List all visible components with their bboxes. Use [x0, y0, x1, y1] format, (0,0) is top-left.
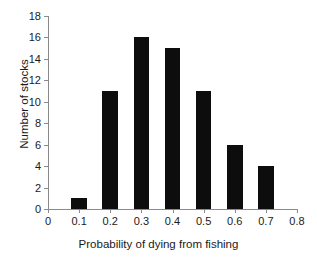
- y-tick-label-4: 4: [35, 161, 41, 172]
- y-tick-label-10: 10: [29, 96, 41, 107]
- x-tick-label-0.7: 0.7: [258, 216, 273, 227]
- y-tick-label-0: 0: [35, 204, 41, 215]
- x-tick-label-0.1: 0.1: [71, 216, 86, 227]
- bars-layer: [48, 16, 298, 209]
- x-tick-label-0.6: 0.6: [227, 216, 242, 227]
- y-tick-label-18: 18: [29, 11, 41, 22]
- x-tick-0.4: [173, 209, 174, 213]
- x-tick-label-0.8: 0.8: [289, 216, 304, 227]
- bar-0.6: [227, 145, 243, 209]
- plot-area: 024681012141618 00.10.20.30.40.50.60.70.…: [48, 16, 297, 209]
- x-tick-0.6: [235, 209, 236, 213]
- y-tick-label-2: 2: [35, 182, 41, 193]
- y-tick-label-6: 6: [35, 139, 41, 150]
- x-tick-0.5: [204, 209, 205, 213]
- x-tick-0.7: [266, 209, 267, 213]
- y-axis-title-wrap: Number of stocks: [12, 16, 28, 209]
- bar-0.7: [258, 166, 274, 209]
- x-tick-label-0.4: 0.4: [165, 216, 180, 227]
- bar-0.2: [102, 91, 118, 209]
- x-tick-0.1: [79, 209, 80, 213]
- y-tick-label-14: 14: [29, 53, 41, 64]
- y-axis-title: Number of stocks: [18, 34, 30, 174]
- bar-0.1: [71, 198, 87, 209]
- x-tick-label-0: 0: [45, 216, 51, 227]
- x-axis-title: Probability of dying from fishing: [0, 238, 317, 250]
- y-tick-label-8: 8: [35, 118, 41, 129]
- x-tick-0.2: [110, 209, 111, 213]
- x-tick-label-0.2: 0.2: [103, 216, 118, 227]
- bar-0.4: [165, 48, 181, 209]
- x-tick-0.8: [297, 209, 298, 213]
- bar-0.3: [134, 37, 150, 209]
- x-tick-label-0.3: 0.3: [134, 216, 149, 227]
- x-tick-0.3: [141, 209, 142, 213]
- y-tick-label-16: 16: [29, 32, 41, 43]
- histogram-figure: 024681012141618 00.10.20.30.40.50.60.70.…: [0, 0, 317, 261]
- y-tick-label-12: 12: [29, 75, 41, 86]
- x-tick-label-0.5: 0.5: [196, 216, 211, 227]
- bar-0.5: [196, 91, 212, 209]
- x-tick-0: [48, 209, 49, 213]
